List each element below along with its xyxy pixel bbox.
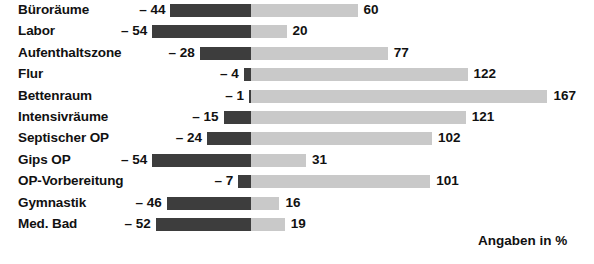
negative-bar (207, 132, 251, 145)
positive-bar (251, 68, 468, 81)
negative-bar (200, 47, 251, 60)
positive-bar (251, 25, 287, 38)
negative-value-label: – 4 (220, 64, 239, 85)
positive-bar (251, 197, 279, 210)
category-label: OP-Vorbereitung (18, 171, 124, 192)
negative-value-label: – 24 (176, 128, 202, 149)
positive-value-label: 19 (291, 214, 306, 235)
positive-value-label: 20 (293, 21, 308, 42)
category-label: Büroräume (18, 0, 89, 21)
negative-bar (156, 218, 251, 231)
category-label: Gips OP (18, 150, 71, 171)
chart-row: OP-Vorbereitung– 7101 (0, 171, 594, 192)
negative-bar (152, 25, 251, 38)
positive-value-label: 60 (364, 0, 379, 21)
category-label: Intensivräume (18, 107, 108, 128)
chart-row: Flur– 4122 (0, 64, 594, 85)
positive-bar (251, 175, 430, 188)
negative-bar (238, 175, 251, 188)
negative-value-label: – 52 (125, 214, 151, 235)
category-label: Labor (18, 21, 55, 42)
negative-value-label: – 15 (192, 107, 218, 128)
negative-value-label: – 44 (139, 0, 165, 21)
positive-value-label: 101 (436, 171, 459, 192)
negative-bar (244, 68, 251, 81)
positive-value-label: 167 (553, 86, 576, 107)
positive-value-label: 121 (472, 107, 495, 128)
category-label: Septischer OP (18, 128, 109, 149)
negative-value-label: – 54 (121, 21, 147, 42)
negative-value-label: – 7 (214, 171, 233, 192)
chart-row: Septischer OP– 24102 (0, 128, 594, 149)
positive-bar (251, 132, 432, 145)
positive-bar (251, 90, 547, 103)
chart-footnote: Angaben in % (478, 233, 567, 248)
chart-row: Gymnastik– 4616 (0, 193, 594, 214)
positive-bar (251, 47, 388, 60)
category-label: Bettenraum (18, 86, 92, 107)
category-label: Flur (18, 64, 43, 85)
positive-value-label: 122 (474, 64, 497, 85)
positive-value-label: 77 (394, 43, 409, 64)
chart-row: Labor– 5420 (0, 21, 594, 42)
positive-value-label: 16 (285, 193, 300, 214)
negative-bar (167, 197, 251, 210)
chart-row: Intensivräume– 15121 (0, 107, 594, 128)
negative-value-label: – 28 (168, 43, 194, 64)
positive-value-label: 102 (438, 128, 461, 149)
chart-row: Med. Bad– 5219 (0, 214, 594, 235)
category-label: Aufenthaltszone (18, 43, 122, 64)
negative-bar (224, 111, 251, 124)
chart-row: Büroräume– 4460 (0, 0, 594, 21)
positive-bar (251, 218, 285, 231)
positive-bar (251, 111, 466, 124)
negative-value-label: – 46 (136, 193, 162, 214)
positive-value-label: 31 (312, 150, 327, 171)
chart-row: Aufenthaltszone– 2877 (0, 43, 594, 64)
diverging-bar-chart: Büroräume– 4460Labor– 5420Aufenthaltszon… (0, 0, 594, 264)
negative-bar (152, 154, 251, 167)
category-label: Gymnastik (18, 193, 86, 214)
category-label: Med. Bad (18, 214, 77, 235)
negative-value-label: – 1 (225, 86, 244, 107)
chart-row: Gips OP– 5431 (0, 150, 594, 171)
chart-row: Bettenraum– 1167 (0, 86, 594, 107)
negative-bar (170, 4, 251, 17)
positive-bar (251, 154, 306, 167)
negative-value-label: – 54 (121, 150, 147, 171)
chart-plot-area: Büroräume– 4460Labor– 5420Aufenthaltszon… (0, 0, 594, 264)
positive-bar (251, 4, 358, 17)
